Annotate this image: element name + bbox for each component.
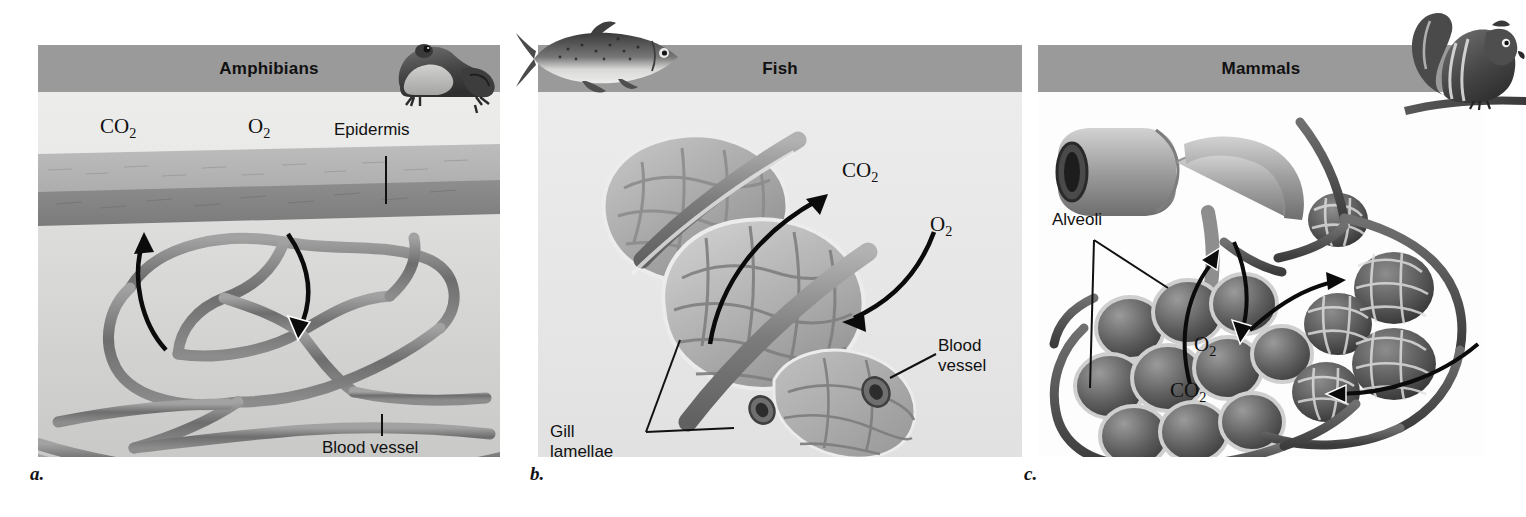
gill-lamellae-label: Gill lamellae — [550, 422, 613, 457]
chipmunk-illustration — [1386, 3, 1526, 123]
panel-title-mammals: Mammals — [1222, 59, 1301, 79]
alveoli-label: Alveoli — [1052, 210, 1102, 230]
o2-label-amphibian: O2 — [248, 114, 270, 142]
fish-gill-diagram — [538, 92, 1022, 457]
alveoli-cluster — [1075, 274, 1312, 457]
panel-letter-b: b. — [530, 463, 544, 485]
mammal-alveoli-diagram — [1038, 92, 1484, 457]
co2-label-fish: CO2 — [842, 158, 878, 186]
frog-illustration — [370, 13, 520, 113]
o2-label-fish: O2 — [930, 212, 952, 240]
amphibian-diagram — [38, 92, 500, 457]
blood-vessel-label-b: Blood vessel — [938, 336, 986, 375]
panel-letter-c: c. — [1024, 463, 1037, 485]
panel-fish: Fish — [538, 45, 1022, 457]
panel-letter-a: a. — [30, 463, 44, 485]
panel-mammals: Mammals — [1038, 45, 1484, 457]
panel-title-amphibians: Amphibians — [219, 59, 318, 79]
fish-illustration — [512, 7, 692, 99]
epidermis-label: Epidermis — [334, 120, 410, 140]
panel-artwork-fish: CO2 O2 Blood vessel Gill lamellae — [538, 92, 1022, 457]
co2-label-mammal: CO2 — [1170, 378, 1206, 406]
o2-label-mammal: O2 — [1194, 332, 1216, 360]
blood-vessel-leader-line-b — [890, 354, 936, 378]
co2-label-amphibian: CO2 — [100, 114, 136, 142]
panel-artwork-mammals: Alveoli O2 CO2 — [1038, 92, 1484, 457]
bronchiole — [1057, 128, 1304, 220]
panel-title-fish: Fish — [762, 59, 798, 79]
panel-artwork-amphibians: CO2 O2 Epidermis Blood vessel — [38, 92, 500, 457]
panel-amphibians: Amphibians — [38, 45, 500, 457]
gill-lamella-lower — [774, 350, 915, 457]
blood-vessel-label-a: Blood vessel — [322, 438, 418, 457]
